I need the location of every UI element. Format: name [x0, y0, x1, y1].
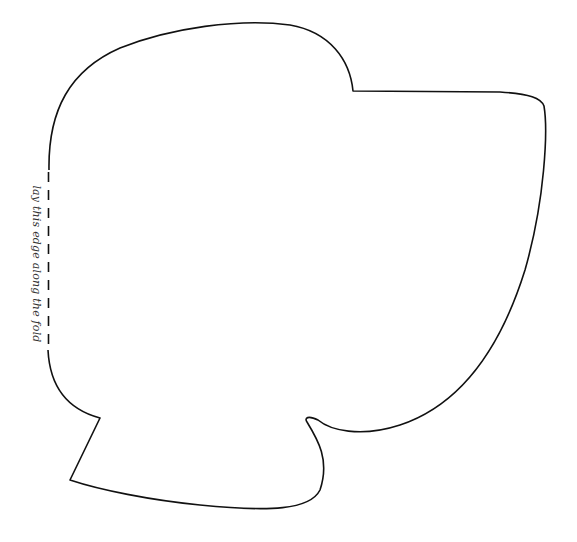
- pattern-piece-canvas: lay this edge along the fold: [0, 0, 577, 542]
- pattern-outline-path: [48, 23, 546, 509]
- pattern-piece-outline: [0, 0, 577, 542]
- fold-instruction-label: lay this edge along the fold: [30, 185, 43, 342]
